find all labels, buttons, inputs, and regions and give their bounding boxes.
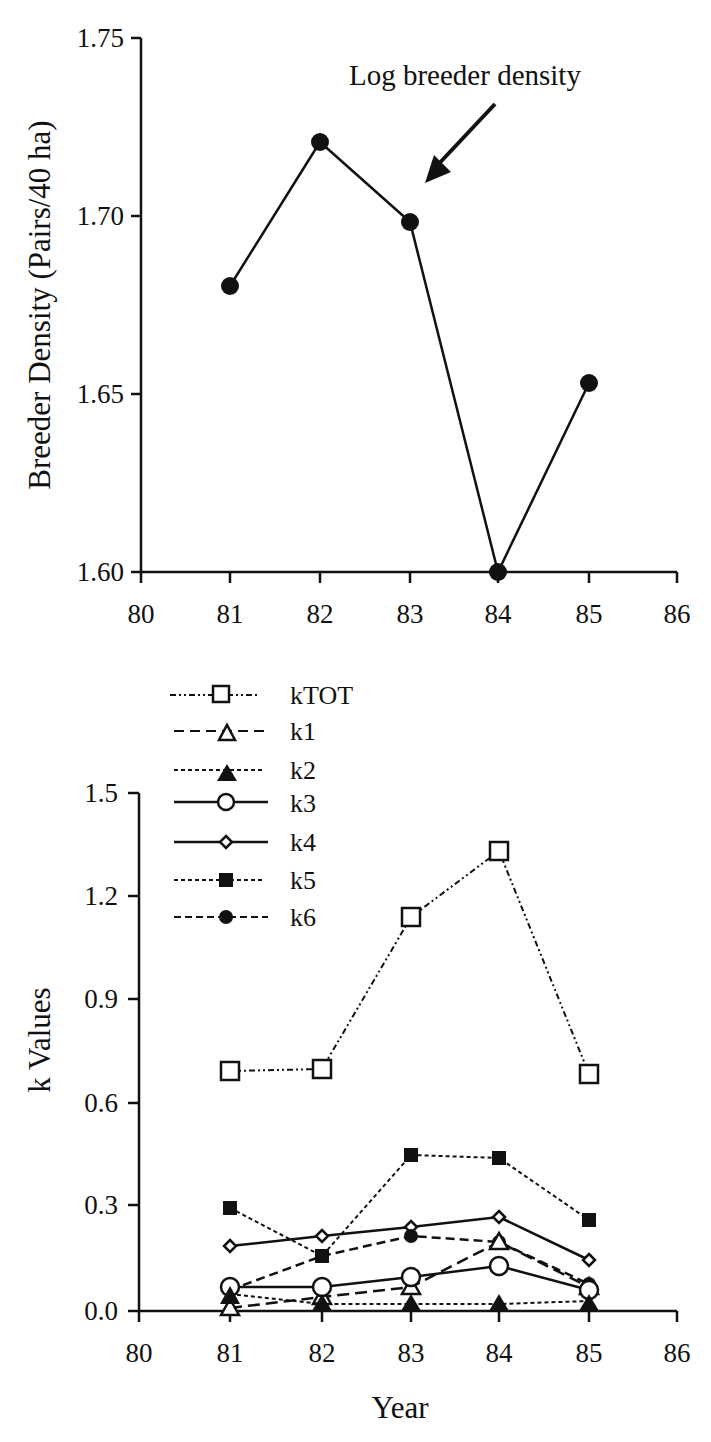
bottom-y-tick-label: 0.6 [84,1088,118,1118]
legend-item-k3: k3 [174,789,316,818]
legend-item-ktot: kTOT [170,681,353,710]
filled-circle-icon [219,910,233,924]
open-circle-icon [218,794,234,810]
filled-circle-marker [489,563,507,581]
svg-text:k4: k4 [290,828,316,857]
svg-text:k5: k5 [290,866,316,895]
top-x-tick-label: 81 [217,599,244,629]
bottom-y-tick-label: 1.5 [84,778,118,808]
filled-circle-marker [311,133,329,151]
top-y-tick-label: 1.70 [77,201,124,231]
arrow-icon [425,104,495,183]
series-ktot [221,842,598,1083]
bottom-x-tick-label: 81 [217,1338,244,1368]
legend-item-k4: k4 [174,828,316,857]
filled-triangle-icon [217,764,237,781]
bottom-x-tick-label: 82 [309,1338,336,1368]
filled-circle-marker [221,277,239,295]
figure: 1.75 1.70 1.65 1.60 80 81 82 83 84 85 86… [0,0,711,1442]
top-x-tick-label: 86 [664,599,691,629]
bottom-y-axis-title: k Values [22,987,57,1092]
top-x-tick-label: 80 [128,599,155,629]
svg-text:k1: k1 [290,717,316,746]
bottom-x-tick-label: 84 [486,1338,514,1368]
top-x-tick-label: 82 [307,599,334,629]
bottom-x-tick-label: 83 [398,1338,425,1368]
svg-text:kTOT: kTOT [290,681,353,710]
breeder-density-line [230,142,589,572]
bottom-x-tick-label: 85 [576,1338,603,1368]
top-y-axis-title: Breeder Density (Pairs/40 ha) [22,120,57,489]
filled-square-icon [219,873,233,887]
legend-item-k5: k5 [174,866,316,895]
svg-text:k2: k2 [290,756,316,785]
top-y-tick-label: 1.75 [77,23,124,53]
filled-circle-marker [401,213,419,231]
filled-circle-marker [580,374,598,392]
series-k5 [223,1148,596,1263]
top-x-tick-label: 83 [397,599,424,629]
svg-text:k6: k6 [290,903,316,932]
breeder-density-markers [221,133,598,581]
bottom-y-tick-label: 0.9 [84,984,118,1014]
legend-item-k1: k1 [174,717,316,746]
bottom-chart: 1.5 1.2 0.9 0.6 0.3 0.0 80 81 82 83 84 8… [22,681,691,1425]
open-square-icon [213,686,229,702]
top-chart: 1.75 1.70 1.65 1.60 80 81 82 83 84 85 86… [22,23,691,629]
bottom-x-tick-label: 80 [126,1338,153,1368]
top-y-tick-label: 1.60 [77,557,124,587]
bottom-y-tick-label: 0.0 [84,1296,118,1326]
legend: kTOT k1 k2 k3 [170,681,353,932]
top-x-tick-label: 85 [576,599,603,629]
bottom-y-tick-label: 0.3 [84,1190,118,1220]
annotation-text: Log breeder density [349,59,581,91]
legend-item-k6: k6 [174,903,316,932]
bottom-x-tick-label: 86 [664,1338,691,1368]
svg-text:k3: k3 [290,789,316,818]
bottom-x-axis-title: Year [371,1390,429,1425]
legend-item-k2: k2 [174,756,316,785]
top-x-tick-label: 84 [485,599,513,629]
bottom-y-tick-label: 1.2 [84,881,118,911]
top-y-tick-label: 1.65 [77,379,124,409]
open-diamond-icon [220,836,232,848]
open-triangle-icon [219,725,235,740]
